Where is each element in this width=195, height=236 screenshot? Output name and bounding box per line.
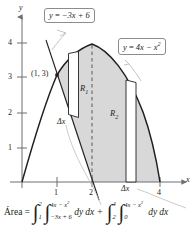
formula-term2-inner-upper: 4x − x2 <box>124 200 143 208</box>
formula-term1-inner-lower: −3x + 6 <box>50 213 71 220</box>
formula-equals: = <box>24 207 29 217</box>
delta-x-label-left: Δx <box>57 118 65 126</box>
figure-double-integral-area: y x 4 3 2 1 1 2 4 (1, 3) R1 R2 Δx Δx y =… <box>0 0 195 236</box>
formula-term2-outer-upper: 4 <box>112 200 115 207</box>
plot-canvas <box>0 0 195 236</box>
formula-term2-inner-upper-exp: 2 <box>141 200 143 205</box>
formula-label: Área <box>4 207 22 217</box>
callout-parabola-eq: = <box>127 42 136 52</box>
formula-term2-dx: dx <box>159 207 168 217</box>
line-callout-leader-tail <box>52 33 66 50</box>
parabola-callout-leader <box>124 60 129 65</box>
delta-x-strip-left <box>69 52 79 118</box>
formula-term2-outer-lower: 2 <box>112 213 115 220</box>
intersection-point-label: (1, 3) <box>31 70 48 78</box>
formula-term2-inner-lower: 0 <box>124 213 127 220</box>
region-label-R1: R1 <box>80 84 88 95</box>
formula-term1-outer-upper: 2 <box>39 200 42 207</box>
parabola-callout-leader-tail <box>129 64 141 81</box>
region-label-R1-sub: 1 <box>85 89 88 95</box>
formula-term1-outer-lower: 1 <box>39 213 42 220</box>
y-tick-label-3: 3 <box>8 73 12 81</box>
y-tick-label-4: 4 <box>8 39 12 47</box>
delta-x-strip-right <box>126 80 136 182</box>
callout-parabola-equation: y = 4x − x2 <box>118 38 166 55</box>
x-axis-label: x <box>186 176 190 184</box>
line-callout-leader <box>57 30 66 36</box>
x-tick-label-2: 2 <box>89 189 93 197</box>
callout-parabola-exponent: 2 <box>158 41 161 47</box>
region-label-R2: R2 <box>110 109 118 120</box>
callout-line-equation: y = −3x + 6 <box>44 8 95 23</box>
formula-term2-dy: dy <box>148 207 157 217</box>
formula-term1-dx: dx <box>85 207 94 217</box>
x-tick-label-1: 1 <box>54 189 58 197</box>
formula-term1-inner-upper-base: 4x − x <box>50 201 67 208</box>
x-tick-label-4: 4 <box>157 189 161 197</box>
region-label-R2-sub: 2 <box>115 114 118 120</box>
intersection-point-dot <box>55 73 59 77</box>
callout-line-eq: = <box>53 10 62 20</box>
y-axis-label: y <box>19 4 23 12</box>
area-formula: Área = ∫ 2 1 ∫ 4x − x2 −3x + 6 dy dx + ∫… <box>4 205 195 218</box>
formula-term1-inner-upper: 4x − x2 <box>50 200 69 208</box>
delta-x-label-right: Δx <box>121 185 129 193</box>
y-tick-label-2: 2 <box>8 109 12 117</box>
formula-plus: + <box>97 207 102 217</box>
y-tick-label-1: 1 <box>8 144 12 152</box>
callout-parabola-rhs: 4x − x <box>136 42 158 52</box>
callout-line-rhs: −3x + 6 <box>62 10 90 20</box>
formula-term1-dy: dy <box>74 207 83 217</box>
formula-term2-inner-upper-base: 4x − x <box>124 201 141 208</box>
formula-term1-inner-upper-exp: 2 <box>67 200 69 205</box>
